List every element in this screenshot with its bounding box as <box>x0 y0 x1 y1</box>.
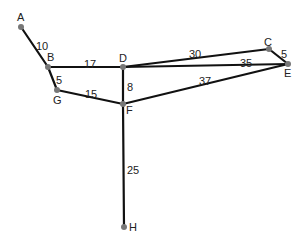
node-label-d: D <box>119 52 127 64</box>
node-labels-layer: ABCDEFGH <box>17 11 291 233</box>
node-b <box>45 64 51 70</box>
edge-weight-label: 8 <box>127 81 133 93</box>
nodes-layer <box>18 24 291 230</box>
edge-weight-label: 5 <box>281 48 287 60</box>
edge-weight-label: 37 <box>199 75 211 87</box>
edge-weight-label: 30 <box>189 48 201 60</box>
edge-f-h <box>123 104 124 227</box>
node-label-b: B <box>47 51 54 63</box>
node-label-c: C <box>264 36 272 48</box>
node-label-h: H <box>129 221 137 233</box>
node-label-g: G <box>53 94 62 106</box>
edge-weight-label: 35 <box>240 57 252 69</box>
node-label-e: E <box>284 67 291 79</box>
node-a <box>18 24 24 30</box>
graph-diagram: 10175158303553725 ABCDEFGH <box>0 0 307 246</box>
edge-weight-label: 5 <box>56 74 62 86</box>
node-g <box>54 87 60 93</box>
node-label-a: A <box>17 11 25 23</box>
edge-weights-layer: 10175158303553725 <box>36 40 287 176</box>
edge-weight-label: 15 <box>85 88 97 100</box>
edge-weight-label: 25 <box>127 164 139 176</box>
node-h <box>121 224 127 230</box>
node-d <box>120 64 126 70</box>
edge-weight-label: 17 <box>84 58 96 70</box>
node-label-f: F <box>126 104 133 116</box>
